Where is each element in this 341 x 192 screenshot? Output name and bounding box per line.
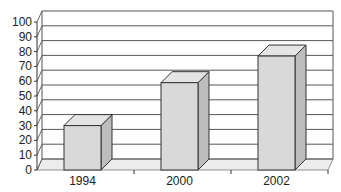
y-tick-label: 40: [19, 104, 33, 118]
x-tick-label: 2002: [263, 174, 290, 188]
x-tick-label: 1994: [69, 174, 96, 188]
y-tick-label: 50: [19, 89, 33, 103]
bar-front: [64, 126, 101, 170]
bar-2000: [161, 72, 209, 170]
bar-1994: [64, 115, 112, 170]
gridline-diagonal: [37, 129, 42, 140]
x-axis-labels: 199420002002: [69, 170, 328, 188]
gridline-diagonal: [37, 41, 42, 52]
gridline-diagonal: [37, 144, 42, 155]
gridline-diagonal: [37, 115, 42, 126]
y-tick-label: 90: [19, 30, 33, 44]
y-tick-label: 80: [19, 45, 33, 59]
gridline-diagonal: [37, 26, 42, 37]
gridline-diagonal: [37, 11, 42, 22]
bars: [64, 45, 306, 170]
bar-2002: [258, 45, 306, 170]
bar-chart: 0102030405060708090100 199420002002: [0, 0, 341, 192]
y-tick-label: 0: [25, 163, 32, 177]
gridline-diagonal: [37, 70, 42, 81]
bar-side: [295, 45, 306, 170]
y-tick-label: 20: [19, 133, 33, 147]
y-tick-label: 70: [19, 59, 33, 73]
gridline-diagonal: [37, 85, 42, 96]
y-axis: 0102030405060708090100: [12, 15, 37, 177]
y-tick-label: 30: [19, 119, 33, 133]
y-tick-label: 10: [19, 148, 33, 162]
bar-front: [161, 83, 198, 170]
y-tick-label: 60: [19, 74, 33, 88]
x-tick-label: 2000: [166, 174, 193, 188]
gridline-diagonal: [37, 100, 42, 111]
y-tick-label: 100: [12, 15, 32, 29]
bar-front: [258, 56, 295, 170]
gridline-diagonal: [37, 55, 42, 66]
bar-side: [198, 72, 209, 170]
